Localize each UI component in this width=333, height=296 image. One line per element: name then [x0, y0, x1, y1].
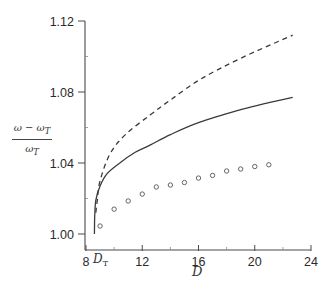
axes: 1.001.041.081.12812162024 — [50, 15, 318, 270]
y-axis-label-denominator: ωT — [12, 143, 52, 157]
y-tick-label: 1.08 — [50, 86, 74, 100]
y-axis-label-numerator: ω − ωT — [12, 122, 52, 140]
dt-annotation: DT — [93, 252, 108, 268]
data-point-circle — [140, 192, 144, 196]
data-point-circle — [238, 167, 242, 171]
data-point-circle — [253, 164, 257, 168]
y-axis-label: ω − ωT ωT — [12, 122, 52, 157]
y-tick-label: 1.12 — [50, 15, 74, 29]
data-point-circle — [112, 207, 116, 211]
data-point-circle — [126, 199, 130, 203]
data-point-circle — [210, 173, 214, 177]
data-point-circle — [224, 169, 228, 173]
y-tick-label: 1.04 — [50, 157, 74, 171]
solid-curve — [94, 97, 292, 234]
x-tick-label: 8 — [83, 255, 90, 269]
data-point-circle — [267, 163, 271, 167]
x-tick-label: 20 — [248, 255, 262, 269]
y-tick-label: 1.00 — [50, 228, 74, 242]
data-point-circle — [98, 224, 102, 228]
x-tick-label: 24 — [304, 255, 318, 269]
data-point-circle — [168, 183, 172, 187]
data-point-circle — [196, 176, 200, 180]
plot-area — [94, 35, 292, 234]
x-axis-label: D — [192, 264, 202, 279]
x-tick-label: 12 — [135, 255, 149, 269]
data-point-circle — [182, 180, 186, 184]
data-point-circle — [154, 185, 158, 189]
